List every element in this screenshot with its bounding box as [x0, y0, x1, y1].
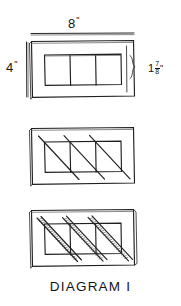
- inch-mark-slot: ": [160, 64, 163, 73]
- diagram-caption: DIAGRAM I: [0, 279, 181, 294]
- slot-fraction: 78: [155, 61, 160, 75]
- dimension-height-value: 4: [6, 60, 14, 75]
- dimension-label-width: 8": [68, 16, 80, 30]
- diagram-container: .ink { stroke:#1f1f1f; fill:none; stroke…: [0, 0, 181, 306]
- inch-mark-width: ": [76, 15, 80, 25]
- dimension-line-height: [27, 42, 29, 97]
- dimension-label-height: 4": [6, 60, 18, 74]
- inch-mark-height: ": [14, 59, 18, 69]
- dimension-line-width: [31, 33, 134, 35]
- figure-double-diagonals: [30, 210, 138, 268]
- dimension-label-slot-width: 178": [148, 61, 163, 75]
- slot-whole-number: 1: [148, 63, 154, 74]
- diagram-drawing: .ink { stroke:#1f1f1f; fill:none; stroke…: [0, 0, 181, 306]
- slot-denominator: 8: [155, 69, 160, 76]
- dimension-width-value: 8: [68, 16, 76, 31]
- figure-single-diagonals: [30, 128, 135, 186]
- figure-plain-panel: [30, 41, 136, 99]
